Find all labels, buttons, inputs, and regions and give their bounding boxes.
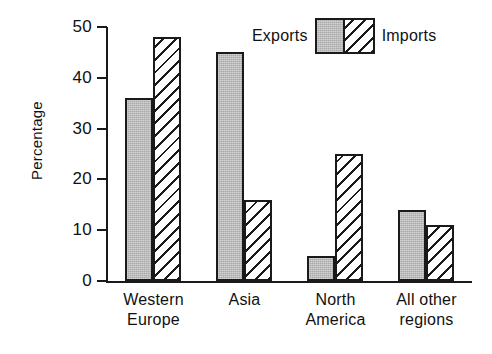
bar-imports-asia: [244, 200, 272, 281]
x-axis-label-line1: Western: [123, 291, 184, 308]
legend-swatch-imports: [345, 20, 373, 52]
bar-exports-asia: [216, 52, 244, 281]
chart-legend: Exports Imports: [252, 18, 436, 54]
y-axis-tick-label: 30: [58, 120, 92, 137]
x-axis-label-line1: North: [315, 291, 355, 308]
y-axis-title: Percentage: [28, 61, 45, 221]
bar-imports-all-other-regions: [426, 225, 454, 281]
x-axis-label-line1: Asia: [229, 291, 261, 308]
plot-area: [108, 27, 472, 281]
bar-chart: Percentage 01020304050 WesternEuropeAsia…: [0, 0, 492, 354]
legend-label-imports: Imports: [382, 27, 437, 45]
bar-exports-north-america: [307, 256, 335, 281]
x-axis-label-line2: regions: [361, 310, 492, 330]
y-axis-tick-label: 0: [58, 272, 92, 289]
bar-imports-north-america: [335, 154, 363, 281]
legend-label-exports: Exports: [252, 27, 308, 45]
legend-swatch-group: [315, 18, 375, 54]
y-axis-tick-label: 50: [58, 18, 92, 35]
bar-imports-western-europe: [153, 37, 181, 281]
y-axis-tick-label: 10: [58, 221, 92, 238]
x-axis-label-line2: Europe: [88, 310, 220, 330]
y-axis-tick-label: 20: [58, 170, 92, 187]
x-axis-label-all-other-regions: All otherregions: [361, 290, 492, 330]
x-axis-line: [106, 281, 472, 283]
y-axis-tick-label: 40: [58, 69, 92, 86]
legend-swatch-exports: [317, 20, 345, 52]
bar-exports-western-europe: [125, 98, 153, 281]
x-axis-label-line1: All other: [396, 291, 457, 308]
bar-exports-all-other-regions: [398, 210, 426, 281]
